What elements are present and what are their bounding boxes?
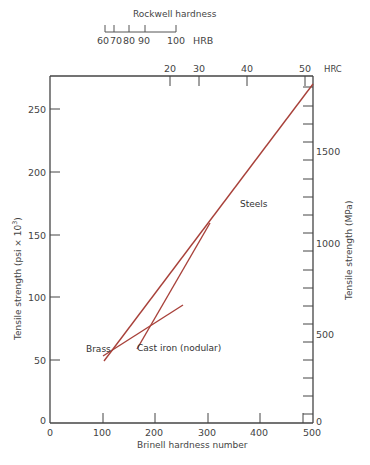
hrb-tick-80: 80 [123, 35, 135, 46]
x-tick-0: 0 [47, 427, 53, 438]
x-tick-500: 500 [303, 427, 321, 438]
y2-tick-1500: 1500 [316, 146, 340, 157]
annotation-cast-iron: Cast iron (nodular) [137, 343, 221, 353]
plot-frame [50, 76, 313, 423]
hrc-label: HRC [324, 64, 342, 74]
x-axis: 0 100 200 300 400 500 Brinell hardness n… [47, 413, 321, 450]
hrc-axis: 20 30 40 50 HRC [164, 63, 342, 86]
annotations: Brass Cast iron (nodular) Steels [86, 199, 268, 354]
annotation-steels: Steels [240, 199, 268, 209]
x-tick-400: 400 [250, 427, 268, 438]
hrc-tick-20: 20 [164, 63, 176, 74]
y2-tick-1000: 1000 [316, 238, 340, 249]
hrb-tick-70: 70 [110, 35, 122, 46]
annotation-brass: Brass [86, 344, 111, 354]
hrb-tick-90: 90 [138, 35, 150, 46]
hardness-tensile-chart: Rockwell hardness 60 70 80 90 100 HRB 20… [0, 0, 370, 465]
y-tick-150: 150 [28, 230, 46, 241]
y-axis-title: Tensile strength (psi × 103) [11, 217, 23, 341]
y-tick-50: 50 [34, 355, 46, 366]
y-tick-250: 250 [28, 104, 46, 115]
x-tick-100: 100 [93, 427, 111, 438]
hrb-label: HRB [193, 35, 213, 46]
series-cast-iron [137, 223, 210, 349]
y2-axis-title: Tensile strength (MPa) [344, 201, 354, 301]
series-steels [104, 84, 313, 361]
y-axis-left: 250 200 150 100 50 0 Tensile strength (p… [11, 104, 60, 426]
y-axis-right: 1500 1000 500 0 Tensile strength (MPa) [303, 87, 354, 427]
hrb-tick-60: 60 [97, 35, 109, 46]
y-tick-0: 0 [40, 415, 46, 426]
hrb-tick-100: 100 [167, 35, 185, 46]
x-tick-200: 200 [145, 427, 163, 438]
y-tick-100: 100 [28, 292, 46, 303]
rockwell-hrb-scale: Rockwell hardness 60 70 80 90 100 HRB [97, 9, 217, 46]
hrc-tick-30: 30 [193, 63, 205, 74]
rockwell-title: Rockwell hardness [133, 9, 217, 19]
y2-tick-500: 500 [316, 329, 334, 340]
data-series [103, 84, 313, 361]
hrc-tick-40: 40 [241, 63, 253, 74]
y-tick-200: 200 [28, 167, 46, 178]
x-tick-300: 300 [198, 427, 216, 438]
y2-tick-0: 0 [316, 416, 322, 427]
hrc-tick-50: 50 [299, 63, 311, 74]
x-axis-title: Brinell hardness number [137, 440, 248, 450]
